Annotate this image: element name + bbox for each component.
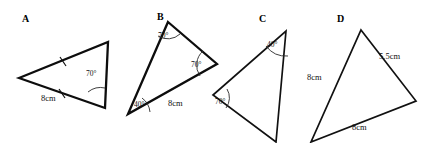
- angle-label-b-70-apex: 70°: [158, 31, 169, 40]
- side-label-a-8cm: 8cm: [41, 93, 56, 103]
- geometry-figure: A 70° 8cm B 70° 70° 40° 8cm: [0, 0, 431, 143]
- side-label-d-5-5cm: 5.5cm: [379, 51, 400, 61]
- triangle-panel-c: C 40° 70°: [213, 13, 288, 142]
- angle-label-b-40: 40°: [134, 100, 145, 109]
- triangle-panel-b: B 70° 70° 40° 8cm: [128, 11, 217, 114]
- side-label-d-8cm-left: 8cm: [307, 72, 322, 82]
- panel-letter-b: B: [157, 11, 164, 22]
- side-label-d-8cm-bottom: 8cm: [352, 122, 367, 132]
- angle-arc-70-a: [88, 88, 105, 92]
- angle-label-b-70-right: 70°: [191, 60, 202, 69]
- angle-label-c-40: 40°: [267, 40, 278, 49]
- triangle-panel-d: D 5.5cm 8cm 8cm: [307, 13, 416, 142]
- panel-letter-a: A: [22, 13, 30, 24]
- triangle-panel-a: A 70° 8cm: [19, 13, 108, 108]
- angle-label-a-70: 70°: [86, 69, 97, 78]
- angle-label-c-70: 70°: [215, 97, 226, 106]
- panel-letter-c: C: [259, 13, 266, 24]
- triangles-diagram: A 70° 8cm B 70° 70° 40° 8cm: [0, 0, 431, 143]
- panel-letter-d: D: [337, 13, 344, 24]
- side-label-b-8cm: 8cm: [168, 98, 183, 108]
